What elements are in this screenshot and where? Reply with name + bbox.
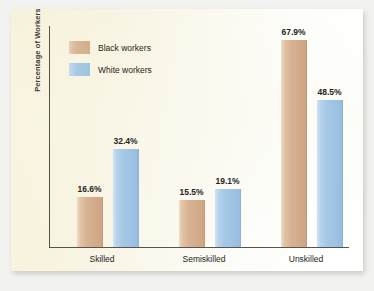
x-axis-tick-label-skilled: Skilled: [62, 254, 142, 264]
bar-semiskilled-white-workers[interactable]: 19.1%: [215, 189, 241, 247]
chart-legend: Black workers White workers: [69, 38, 189, 82]
bar-value-label: 67.9%: [267, 27, 320, 37]
legend-swatch-icon: [69, 41, 90, 54]
x-axis-tick-label-semiskilled: Semiskilled: [164, 254, 244, 264]
bar-value-label: 19.1%: [201, 176, 254, 186]
bar-semiskilled-black-workers[interactable]: 15.5%: [179, 200, 205, 247]
x-axis-tick-label-unskilled: Unskilled: [266, 254, 346, 264]
chart-card: Percentage of Workers 16.6% 32.4% 15.5% …: [11, 9, 363, 271]
bar-skilled-white-workers[interactable]: 32.4%: [113, 149, 139, 247]
legend-item-white-workers[interactable]: White workers: [69, 60, 189, 79]
legend-item-black-workers[interactable]: Black workers: [69, 38, 189, 57]
bar-unskilled-black-workers[interactable]: 67.9%: [281, 40, 307, 247]
bar-skilled-black-workers[interactable]: 16.6%: [77, 197, 103, 247]
x-axis-tick-labels: Skilled Semiskilled Unskilled: [49, 254, 349, 270]
bar-value-label: 15.5%: [165, 187, 218, 197]
figure-root: Percentage of Workers 16.6% 32.4% 15.5% …: [0, 0, 374, 291]
y-axis-label: Percentage of Workers: [33, 9, 42, 105]
bar-unskilled-white-workers[interactable]: 48.5%: [317, 100, 343, 247]
legend-item-label: White workers: [98, 65, 152, 75]
legend-swatch-icon: [69, 63, 90, 76]
bar-value-label: 32.4%: [99, 136, 152, 146]
legend-item-label: Black workers: [98, 43, 151, 53]
bar-value-label: 16.6%: [63, 184, 116, 194]
bar-value-label: 48.5%: [303, 87, 356, 97]
